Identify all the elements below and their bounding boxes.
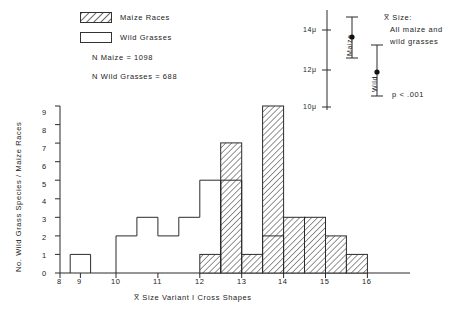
inset-plot <box>322 10 383 110</box>
figure-root: Maize Races Wild Grasses N Maize = 1098 … <box>0 0 468 310</box>
inset-mean-dot-wild <box>374 69 379 74</box>
bar-maize-14.0-14.5 <box>284 217 305 273</box>
y-axis-ticks <box>55 106 60 273</box>
bar-maize-15.5-16.0 <box>346 254 367 273</box>
bar-maize-14.5-15.0 <box>305 217 326 273</box>
bar-maize-13.0-13.5 <box>242 254 263 273</box>
bar-maize-15.0-15.5 <box>326 236 347 273</box>
plot-canvas <box>0 0 468 310</box>
x-axis-ticks <box>60 273 367 278</box>
inset-errorbar-wild <box>371 45 383 96</box>
inset-mean-dot-maize <box>349 34 354 39</box>
inset-errorbar-maize <box>346 17 358 58</box>
bar-wild-8.5-9.0 <box>70 254 90 273</box>
bar-maize-13.5-14.0 <box>263 106 284 273</box>
bar-maize-12.5-13.0 <box>221 143 242 273</box>
bar-maize-12.0-12.5 <box>200 254 221 273</box>
